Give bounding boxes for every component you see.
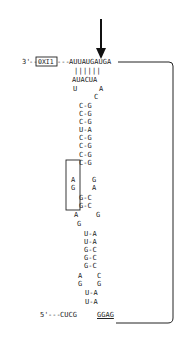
loop1-right-0: G: [92, 176, 96, 184]
loop1-left-1: G: [71, 184, 75, 192]
loop-left: U: [73, 85, 77, 93]
pair-row: C-G: [79, 102, 92, 110]
loop2-right-0: G: [96, 211, 100, 219]
connector-line: [116, 62, 173, 323]
loop2-left-1: G: [77, 220, 81, 228]
pair-row: G-C: [79, 194, 92, 202]
pair-row: U-A: [84, 238, 97, 246]
rna-secondary-structure-diagram: 3' --- OXI1 --- AUUAUGAUGA |||||| AUACUA…: [0, 0, 182, 350]
pair-row: G-C: [84, 262, 97, 270]
loop-right: A: [99, 85, 103, 93]
pair-row: G-C: [84, 254, 97, 262]
pair-row: U-A: [84, 230, 97, 238]
pair-row: G-C: [79, 202, 92, 210]
loop3-left-0: A: [78, 272, 82, 280]
bottom-dash: ---: [48, 311, 61, 319]
loop2-left-0: A: [74, 211, 78, 219]
pair-row: C-G: [79, 110, 92, 118]
dash-right: ---: [57, 58, 70, 66]
bottom-sequence-left: CUCG: [60, 311, 77, 319]
pair-row: C-G: [79, 134, 92, 142]
loop1-right-1: A: [92, 184, 96, 192]
pair-row: U-A: [85, 298, 98, 306]
oxi1-label: OXI1: [38, 58, 54, 66]
shine-dalgarno-sequence: GGAG: [97, 311, 114, 319]
pair-row: C-G: [79, 118, 92, 126]
pair-row: C-G: [79, 151, 92, 159]
loop3-right-1: G: [97, 280, 101, 288]
loop3-left-1: G: [78, 280, 82, 288]
pair-row: G-C: [84, 246, 97, 254]
pair-row: C-G: [79, 142, 92, 150]
pair-row: U-A: [85, 289, 98, 297]
pairing-strand: AUACUA: [72, 76, 97, 84]
pair-row: C-G: [79, 159, 92, 167]
pair-row: U-A: [79, 126, 92, 134]
loop1-left-0: A: [71, 176, 75, 184]
top-sequence: AUUAUGAUGA: [69, 58, 111, 66]
loop3-right-0: C: [97, 272, 101, 280]
bulge-base: C: [94, 93, 98, 101]
base-pair-bars: ||||||: [74, 67, 101, 75]
